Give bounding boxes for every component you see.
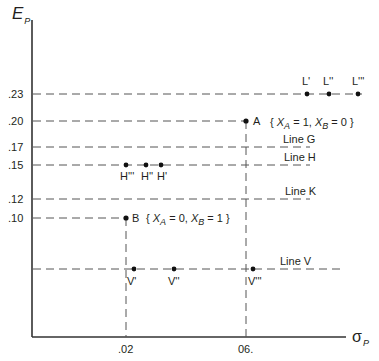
x-axis-label: σP xyxy=(352,328,369,348)
line-g-label: Line G xyxy=(283,133,315,145)
point-a-annotation: { XA = 1, XB = 0 } xyxy=(270,116,354,131)
y-tick-015: .15 xyxy=(8,159,23,171)
point-h3-marker xyxy=(124,163,129,168)
x-tick-006: 06. xyxy=(238,343,253,355)
point-v2-label: V'' xyxy=(168,275,180,287)
y-tick-023: .23 xyxy=(8,88,23,100)
portfolio-diagram: EP σP .23 .20 .17 .15 .12 .10 .02 06. Li… xyxy=(0,0,379,361)
point-a-label: A xyxy=(253,115,261,127)
line-v-label: Line V xyxy=(280,255,312,267)
point-v2-marker xyxy=(172,267,177,272)
y-axis-label: EP xyxy=(12,4,30,26)
point-l1-label: L' xyxy=(302,75,310,87)
point-l2-label: L'' xyxy=(323,75,333,87)
point-h1-marker xyxy=(159,163,164,168)
y-tick-012: .12 xyxy=(8,193,23,205)
point-h2-marker xyxy=(144,163,149,168)
point-v3-label: V''' xyxy=(248,275,262,287)
point-b-annotation: { XA = 0, XB = 1 } xyxy=(146,212,230,227)
point-b-marker xyxy=(123,215,128,220)
point-h3-label: H''' xyxy=(120,170,134,182)
point-h1-label: H' xyxy=(157,170,167,182)
point-v3-marker xyxy=(251,267,256,272)
diagram-svg: EP σP .23 .20 .17 .15 .12 .10 .02 06. Li… xyxy=(0,0,379,361)
point-h2-label: H'' xyxy=(141,170,153,182)
point-l2-marker xyxy=(327,92,332,97)
point-l3-marker xyxy=(356,92,361,97)
y-tick-020: .20 xyxy=(8,115,23,127)
y-tick-017: .17 xyxy=(8,141,23,153)
line-k-label: Line K xyxy=(285,185,317,197)
point-l3-label: L''' xyxy=(352,75,364,87)
line-h-label: Line H xyxy=(284,151,316,163)
point-b-label: B xyxy=(132,212,139,224)
x-tick-002: .02 xyxy=(118,343,133,355)
y-tick-010: .10 xyxy=(8,212,23,224)
point-a-marker xyxy=(243,118,248,123)
point-v1-marker xyxy=(132,267,137,272)
point-v1-label: V' xyxy=(127,275,136,287)
point-l1-marker xyxy=(305,92,310,97)
